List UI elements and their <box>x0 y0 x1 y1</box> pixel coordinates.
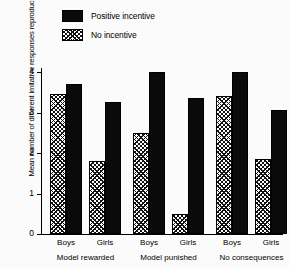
bar-no-incentive <box>172 214 188 234</box>
legend-label-positive-incentive: Positive incentive <box>91 11 155 21</box>
y-tick-label-1: 1 <box>29 189 34 198</box>
y-axis-line <box>41 68 42 235</box>
plot-area: 0 1 2 3 4 <box>41 58 283 235</box>
y-tick-label-0: 0 <box>29 229 34 238</box>
bar-positive-incentive <box>149 72 165 234</box>
x-axis-sublabel-girls: Girls <box>164 238 212 247</box>
legend-label-no-incentive: No incentive <box>91 30 137 40</box>
bar-positive-incentive <box>232 72 248 234</box>
bar-no-incentive <box>50 94 66 234</box>
y-axis-title: Mean number of different imitative respo… <box>27 0 36 190</box>
y-tick-1: 1 <box>37 194 42 195</box>
bar-no-incentive <box>255 159 271 234</box>
x-axis-group-label-2: No consequences <box>202 253 289 262</box>
y-tick-label-3: 3 <box>29 108 34 117</box>
bar-positive-incentive <box>188 98 204 234</box>
bar-no-incentive <box>216 96 232 234</box>
y-tick-label-2: 2 <box>29 148 34 157</box>
bar-positive-incentive <box>66 84 82 234</box>
bar-chart: Positive incentive No incentive Mean num… <box>0 0 289 268</box>
bar-no-incentive <box>89 161 105 234</box>
legend-item-no-incentive: No incentive <box>62 28 155 42</box>
legend-item-positive-incentive: Positive incentive <box>62 9 155 23</box>
x-axis-line <box>41 234 283 235</box>
x-axis-sublabel-girls: Girls <box>247 238 289 247</box>
bar-positive-incentive <box>105 102 121 234</box>
bar-no-incentive <box>133 133 149 234</box>
y-tick-0: 0 <box>37 234 42 235</box>
legend-swatch-solid-icon <box>62 10 83 22</box>
bar-positive-incentive <box>271 110 287 234</box>
y-tick-4: 4 <box>37 72 42 73</box>
x-axis-sublabel-girls: Girls <box>81 238 129 247</box>
y-tick-3: 3 <box>37 113 42 114</box>
y-tick-label-4: 4 <box>29 67 34 76</box>
legend-swatch-hatch-icon <box>62 29 83 41</box>
chart-legend: Positive incentive No incentive <box>62 9 155 47</box>
y-tick-2: 2 <box>37 153 42 154</box>
